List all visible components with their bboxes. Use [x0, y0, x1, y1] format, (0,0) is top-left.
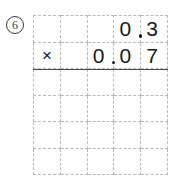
cell-r1c1[interactable]: [34, 16, 61, 43]
cell-r2c3[interactable]: 0: [87, 42, 114, 69]
cell-value-r1c4: 0: [112, 16, 138, 41]
multiplicand-row: 0 3: [34, 16, 168, 43]
cell-r4c1[interactable]: [34, 95, 61, 122]
cell-value-r4c1: [34, 96, 60, 121]
cell-value-r3c5: [141, 69, 167, 94]
cell-value-r6c5: [141, 149, 167, 174]
calculation-grid-container: 0 3 × 0 0 7: [33, 15, 168, 168]
cell-r6c1[interactable]: [34, 148, 61, 175]
cell-r4c3[interactable]: [87, 95, 114, 122]
cell-r3c2[interactable]: [60, 69, 87, 96]
cell-r2c5[interactable]: 7: [141, 42, 168, 69]
cell-value-r4c3: [88, 96, 114, 121]
calculation-grid-body: 0 3 × 0 0 7: [34, 16, 168, 175]
cell-value-r5c1: [34, 122, 60, 147]
cell-value-r3c4: [114, 69, 140, 94]
cell-value-r4c2: [61, 96, 87, 121]
cell-value-r4c4: [114, 96, 140, 121]
cell-value-r3c3: [88, 69, 114, 94]
work-row-4: [34, 148, 168, 175]
cell-value-r3c1: [34, 69, 60, 94]
cell-value-r6c1: [34, 149, 60, 174]
cell-value-r5c5: [141, 122, 167, 147]
cell-value-r2c5: 7: [139, 43, 165, 68]
cell-value-r6c4: [114, 149, 140, 174]
multiplier-row: × 0 0 7: [34, 42, 168, 69]
calculation-grid: 0 3 × 0 0 7: [33, 15, 168, 175]
cell-r5c3[interactable]: [87, 122, 114, 149]
cell-r6c4[interactable]: [114, 148, 141, 175]
cell-r3c3[interactable]: [87, 69, 114, 96]
cell-r5c2[interactable]: [60, 122, 87, 149]
cell-r5c4[interactable]: [114, 122, 141, 149]
cell-r1c4[interactable]: 0: [114, 16, 141, 43]
cell-value-r5c2: [61, 122, 87, 147]
cell-r2c1[interactable]: ×: [34, 42, 61, 69]
cell-value-r3c2: [61, 69, 87, 94]
work-row-2: [34, 95, 168, 122]
cell-value-r2c4: 0: [112, 43, 138, 68]
cell-value-r5c3: [88, 122, 114, 147]
cell-value-r1c1: [34, 16, 60, 41]
problem-number-badge: 6: [6, 16, 24, 34]
multiplication-operator: ×: [34, 43, 60, 68]
math-worksheet-problem: 6 0 3 × 0 0 7: [0, 0, 175, 178]
cell-value-r6c3: [88, 149, 114, 174]
cell-r6c5[interactable]: [141, 148, 168, 175]
cell-value-r1c3: [88, 16, 114, 41]
cell-r6c2[interactable]: [60, 148, 87, 175]
cell-r5c1[interactable]: [34, 122, 61, 149]
cell-r6c3[interactable]: [87, 148, 114, 175]
cell-value-r1c5: 3: [139, 16, 165, 41]
cell-r4c5[interactable]: [141, 95, 168, 122]
cell-r4c4[interactable]: [114, 95, 141, 122]
cell-r2c4[interactable]: 0: [114, 42, 141, 69]
cell-r3c4[interactable]: [114, 69, 141, 96]
cell-value-r5c4: [114, 122, 140, 147]
cell-r1c2[interactable]: [60, 16, 87, 43]
cell-value-r2c3: 0: [86, 43, 112, 68]
cell-value-r6c2: [61, 149, 87, 174]
cell-value-r4c5: [141, 96, 167, 121]
multiplication-rule-line: [33, 69, 168, 70]
cell-r1c3[interactable]: [87, 16, 114, 43]
cell-value-r2c2: [61, 43, 87, 68]
work-row-3: [34, 122, 168, 149]
cell-r5c5[interactable]: [141, 122, 168, 149]
work-row-1: [34, 69, 168, 96]
cell-value-r1c2: [61, 16, 87, 41]
cell-r4c2[interactable]: [60, 95, 87, 122]
cell-r2c2[interactable]: [60, 42, 87, 69]
cell-r1c5[interactable]: 3: [141, 16, 168, 43]
cell-r3c1[interactable]: [34, 69, 61, 96]
cell-r3c5[interactable]: [141, 69, 168, 96]
